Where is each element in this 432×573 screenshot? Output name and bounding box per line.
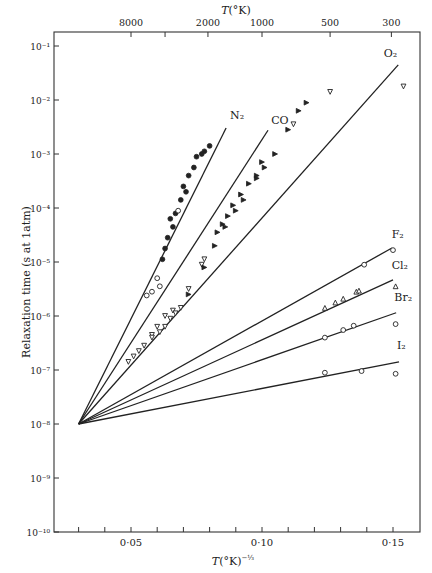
y-tick-label: 10⁻³ [30, 150, 50, 160]
y-tick-label: 10⁻⁹ [30, 474, 50, 484]
y-tick-label: 10⁻⁸ [30, 420, 50, 430]
data-points [126, 84, 406, 376]
relaxation-time-chart: 10⁻¹10⁻²10⁻³10⁻⁴10⁻⁵10⁻⁶10⁻⁷10⁻⁸10⁻⁹10⁻¹… [0, 0, 432, 573]
plot-frame [54, 32, 420, 532]
marker-filled-circle [184, 189, 189, 194]
marker-open-triangle-down [202, 257, 207, 262]
top-tick-label: 8000 [119, 17, 143, 28]
marker-filled-triangle [239, 192, 244, 197]
marker-filled-triangle [241, 198, 246, 203]
marker-open-triangle-up [322, 306, 327, 311]
y-tick-label: 10⁻² [30, 96, 50, 106]
marker-filled-triangle [286, 127, 291, 132]
x-tick-label: 0·05 [120, 537, 142, 548]
marker-open-circle [322, 335, 327, 340]
marker-filled-triangle [202, 265, 207, 270]
marker-open-circle [155, 276, 160, 281]
marker-open-triangle-down [401, 84, 406, 89]
series-labels: N₂COO₂F₂Cl₂Br₂I₂ [230, 47, 412, 353]
x-axis-ticks: 0·050·100·15 [79, 527, 405, 548]
marker-open-triangle-up [393, 284, 398, 289]
marker-open-circle [144, 293, 149, 298]
marker-filled-circle [160, 257, 165, 262]
y-tick-label: 10⁻¹⁰ [27, 528, 51, 538]
marker-filled-circle [194, 154, 199, 159]
marker-filled-circle [191, 165, 196, 170]
series-label: O₂ [384, 47, 397, 60]
plot-border [54, 32, 420, 532]
marker-filled-triangle [262, 165, 267, 170]
x-tick-label: 0·10 [251, 537, 273, 548]
y-tick-label: 10⁻⁶ [30, 312, 50, 322]
marker-open-triangle-down [178, 306, 183, 311]
marker-open-triangle-down [155, 324, 160, 329]
marker-open-triangle-down [142, 343, 147, 348]
marker-open-triangle-down [163, 314, 168, 319]
marker-filled-triangle [231, 203, 236, 208]
marker-filled-triangle [260, 160, 265, 165]
x-tick-label: 0·15 [382, 537, 404, 548]
marker-filled-triangle [304, 100, 309, 105]
top-tick-label: 1000 [250, 17, 274, 28]
marker-filled-triangle [212, 243, 217, 248]
marker-open-triangle-down [168, 316, 173, 321]
series-label: CO [271, 114, 288, 127]
top-tick-label: 2000 [196, 17, 220, 28]
marker-filled-circle [178, 198, 183, 203]
y-tick-label: 10⁻¹ [30, 42, 50, 52]
marker-filled-triangle [233, 208, 238, 213]
marker-filled-circle [207, 144, 212, 149]
series-line [79, 362, 399, 424]
marker-open-triangle-down [328, 90, 333, 95]
marker-open-circle [391, 248, 396, 253]
series-label: I₂ [397, 339, 406, 352]
top-axis-label: T(°K) [221, 4, 251, 17]
marker-open-triangle-up [333, 300, 338, 305]
y-tick-label: 10⁻⁴ [30, 204, 50, 214]
marker-filled-triangle [223, 225, 228, 230]
marker-open-circle [362, 262, 367, 267]
marker-filled-circle [199, 152, 204, 157]
marker-open-circle [322, 370, 327, 375]
marker-filled-circle [181, 184, 186, 189]
y-tick-label: 10⁻⁷ [30, 366, 50, 376]
marker-filled-triangle [296, 108, 301, 113]
series-line [79, 248, 392, 424]
marker-filled-triangle [273, 152, 278, 157]
marker-filled-circle [171, 225, 176, 230]
top-axis-ticks: 800020001000500300 [119, 17, 401, 37]
marker-filled-triangle [186, 292, 191, 297]
marker-filled-triangle [247, 181, 252, 186]
series-label: Br₂ [394, 291, 412, 304]
series-label: F₂ [392, 228, 404, 241]
series-label: Cl₂ [392, 259, 408, 272]
y-axis-label: Relaxation time (s at 1atm) [20, 206, 33, 358]
marker-filled-triangle [215, 230, 220, 235]
marker-open-triangle-down [126, 360, 131, 365]
marker-filled-circle [163, 246, 168, 251]
marker-open-triangle-down [173, 311, 178, 316]
x-axis-label: T(°K)−⅓ [212, 554, 255, 568]
marker-open-circle [341, 328, 346, 333]
marker-filled-circle [186, 173, 191, 178]
series-label: N₂ [230, 109, 244, 122]
top-tick-label: 500 [321, 17, 339, 28]
marker-filled-triangle [226, 214, 231, 219]
y-tick-label: 10⁻⁵ [30, 258, 50, 268]
marker-open-circle [150, 289, 155, 294]
marker-open-triangle-down [136, 349, 141, 354]
marker-open-triangle-down [186, 287, 191, 292]
marker-open-triangle-down [131, 354, 136, 359]
marker-open-circle [393, 371, 398, 376]
marker-open-triangle-up [357, 288, 362, 293]
marker-open-circle [393, 322, 398, 327]
marker-filled-circle [165, 235, 170, 240]
marker-open-triangle-down [291, 122, 296, 127]
marker-open-circle [351, 323, 356, 328]
marker-open-circle [176, 208, 181, 213]
marker-open-circle [359, 369, 364, 374]
marker-open-triangle-up [341, 296, 346, 301]
top-tick-label: 300 [382, 17, 400, 28]
marker-open-circle [157, 284, 162, 289]
marker-filled-circle [168, 216, 173, 221]
